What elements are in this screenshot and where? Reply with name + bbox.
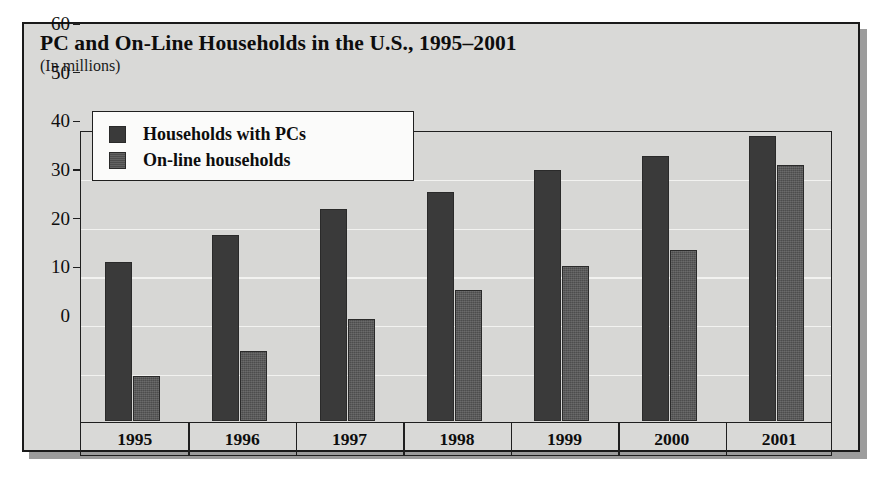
x-axis: 1995199619971998199920002001 <box>80 423 832 456</box>
y-tick-label-20: 20 <box>51 208 70 230</box>
chart-legend: Households with PCs On-line households <box>92 111 414 181</box>
y-tick-label-40: 40 <box>51 110 70 132</box>
y-tick-mark-20 <box>73 218 80 220</box>
bar-1999-pc <box>534 170 561 420</box>
bar-group-2001 <box>727 134 834 421</box>
chart-figure: PC and On-Line Households in the U.S., 1… <box>22 22 860 452</box>
chart-title: PC and On-Line Households in the U.S., 1… <box>40 32 740 55</box>
y-tick-mark-50 <box>73 72 80 74</box>
y-axis: 0102030405060 <box>24 24 80 316</box>
y-tick-mark-10 <box>73 267 80 269</box>
y-tick-mark-30 <box>73 169 80 171</box>
bar-2001-online <box>777 165 804 420</box>
bar-2000-pc <box>642 156 669 421</box>
y-tick-label-10: 10 <box>51 256 70 278</box>
bar-1996-pc <box>212 235 239 420</box>
x-axis-separator-1 <box>188 423 190 455</box>
y-tick-label-30: 30 <box>51 159 70 181</box>
legend-item-households-with-pcs: Households with PCs <box>109 121 413 147</box>
x-axis-separator-4 <box>511 423 513 455</box>
x-axis-separator-3 <box>403 423 405 455</box>
bar-2001-pc <box>749 136 776 420</box>
bar-1998-pc <box>427 192 454 421</box>
x-axis-separator-6 <box>726 423 728 455</box>
bar-1995-online <box>133 376 160 421</box>
legend-item-on-line-households: On-line households <box>109 147 413 173</box>
x-tick-label-1997: 1997 <box>332 429 367 450</box>
y-tick-mark-40 <box>73 121 80 123</box>
bar-1997-pc <box>320 209 347 421</box>
y-tick-label-50: 50 <box>51 62 70 84</box>
bar-2000-online <box>670 250 697 421</box>
bar-1995-pc <box>105 262 132 421</box>
y-tick-label-60: 60 <box>51 13 70 35</box>
legend-swatch-icon-pc <box>109 126 126 143</box>
legend-swatch-icon-online <box>109 152 126 169</box>
x-tick-label-1998: 1998 <box>440 429 475 450</box>
x-axis-separator-5 <box>618 423 620 455</box>
bar-1998-online <box>455 290 482 420</box>
bar-1997-online <box>348 319 375 420</box>
legend-label-pc: Households with PCs <box>143 124 306 145</box>
x-tick-label-2000: 2000 <box>654 429 689 450</box>
x-tick-label-1995: 1995 <box>117 429 152 450</box>
bar-1999-online <box>562 266 589 420</box>
bar-1996-online <box>240 351 267 421</box>
x-tick-label-1999: 1999 <box>547 429 582 450</box>
y-tick-mark-60 <box>73 23 80 25</box>
x-tick-label-1996: 1996 <box>225 429 260 450</box>
x-tick-label-2001: 2001 <box>762 429 797 450</box>
bar-group-1998 <box>405 134 512 421</box>
chart-subtitle: (In millions) <box>40 57 740 75</box>
bar-group-2000 <box>620 134 727 421</box>
x-axis-separator-2 <box>296 423 298 455</box>
title-block: PC and On-Line Households in the U.S., 1… <box>40 32 740 75</box>
bar-group-1999 <box>512 134 619 421</box>
y-tick-label-0: 0 <box>61 305 71 327</box>
legend-label-online: On-line households <box>143 150 291 171</box>
